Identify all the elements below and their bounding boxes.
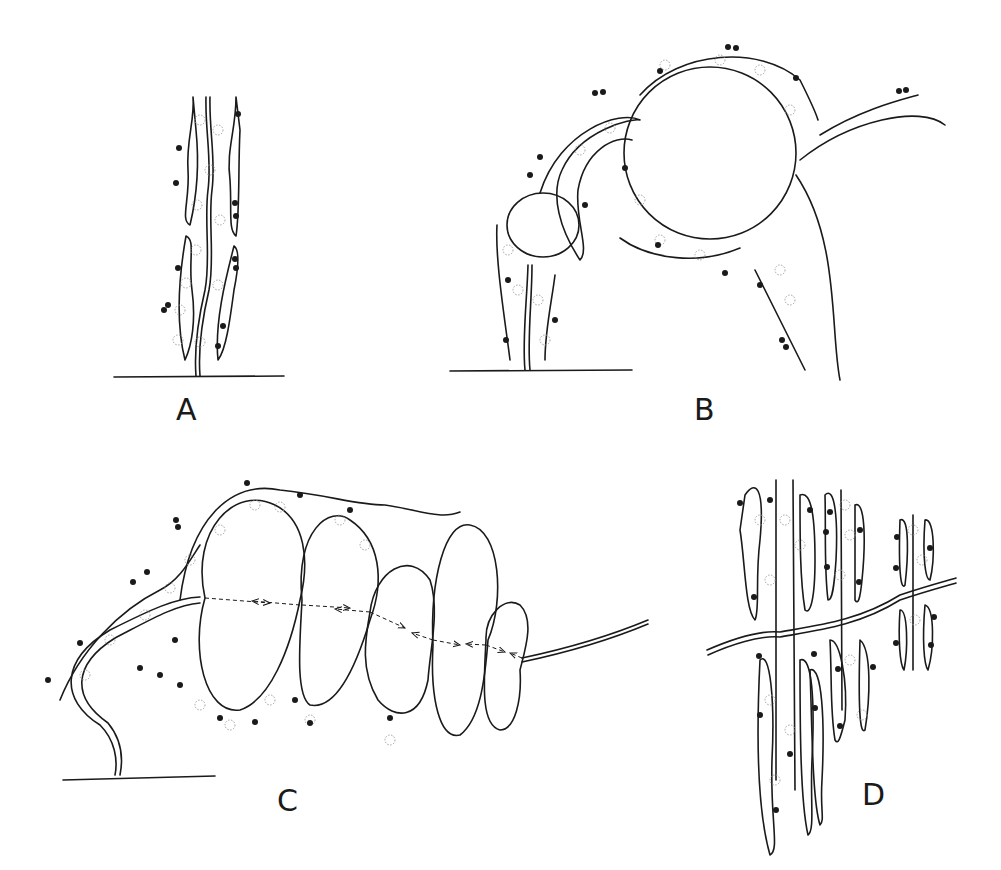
panel-d-drawing (707, 480, 956, 855)
panel-label-a: A (176, 392, 197, 427)
panel-c-drawing (45, 480, 648, 780)
panel-b-drawing (450, 44, 945, 380)
panel-a-drawing (114, 97, 284, 377)
panel-label-b: B (694, 392, 715, 427)
figure-drawing (0, 0, 1001, 870)
panel-label-c: C (277, 783, 298, 818)
panel-label-d: D (862, 777, 885, 812)
